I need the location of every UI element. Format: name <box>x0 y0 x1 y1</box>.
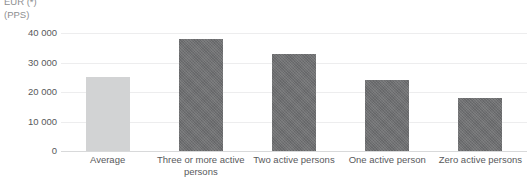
y-axis-unit-title: EUR (*) (PPS) <box>4 0 37 21</box>
bar-series <box>61 33 527 151</box>
y-axis-tick-label: 10 000 <box>3 117 57 127</box>
y-axis-tick-labels: 40 00030 00020 00010 0000 <box>0 33 57 151</box>
bar-slot <box>154 33 247 151</box>
x-axis-category-labels: AverageThree or more active personsTwo a… <box>61 154 527 192</box>
bar[interactable] <box>365 80 409 151</box>
y-axis-tick-label: 40 000 <box>3 28 57 38</box>
bar[interactable] <box>458 98 502 151</box>
bar[interactable] <box>272 54 316 151</box>
y-axis-tick-label: 0 <box>3 146 57 156</box>
bar-slot <box>247 33 340 151</box>
bar-chart: EUR (*) (PPS) 40 00030 00020 00010 0000 … <box>0 0 531 195</box>
bar-slot <box>341 33 434 151</box>
axis-baseline <box>61 151 527 152</box>
x-axis-category-label: Zero active persons <box>434 154 527 166</box>
x-axis-category-label: One active person <box>341 154 434 166</box>
bar[interactable] <box>86 77 130 151</box>
x-axis-category-label: Three or more active persons <box>154 154 247 178</box>
y-axis-tick-label: 30 000 <box>3 58 57 68</box>
y-axis-unit-line-2: (PPS) <box>4 8 37 21</box>
bar-slot <box>61 33 154 151</box>
x-axis-category-label: Two active persons <box>247 154 340 166</box>
y-axis-unit-line-1: EUR (*) <box>4 0 37 8</box>
bar-slot <box>434 33 527 151</box>
y-axis-tick-label: 20 000 <box>3 87 57 97</box>
plot-area <box>61 33 527 151</box>
bar[interactable] <box>179 39 223 151</box>
x-axis-category-label: Average <box>61 154 154 166</box>
